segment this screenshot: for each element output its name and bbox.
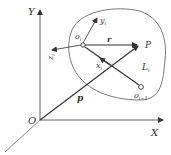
x-axis-label: X xyxy=(150,127,159,138)
link-body-outline xyxy=(69,9,166,100)
prev-origin-label: oi−1 xyxy=(134,91,148,101)
vector-r-label: r xyxy=(107,34,112,44)
point-P-label: P xyxy=(144,40,152,50)
local-origin-label: oi xyxy=(75,32,82,42)
local-y-axis xyxy=(83,18,97,43)
local-x-label: xi xyxy=(96,61,103,71)
prev-origin-joint xyxy=(139,85,144,90)
y-axis-label: Y xyxy=(28,6,36,17)
local-z-axis xyxy=(52,45,81,50)
link-label: Li xyxy=(141,62,150,73)
local-z-label: zi xyxy=(46,54,56,61)
vector-p-label: p xyxy=(77,93,84,103)
local-origin-joint xyxy=(81,43,85,47)
coordinate-frame-diagram: Y X O oi yi zi xi r P Li oi−1 p xyxy=(0,0,171,155)
diagram-svg: Y X O oi yi zi xi r P Li oi−1 p xyxy=(0,0,171,155)
origin-label: O xyxy=(28,115,36,126)
local-y-label: yi xyxy=(99,16,107,26)
local-x-arrow xyxy=(100,58,110,65)
